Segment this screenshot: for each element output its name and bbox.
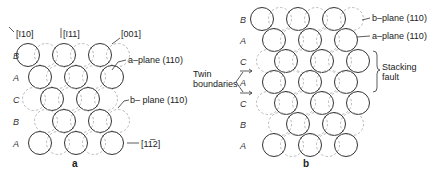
atom-circle-dashed (293, 50, 316, 73)
atom-circle-solid (29, 66, 52, 89)
atom-circle-dashed (317, 134, 340, 157)
atom-circle-solid (347, 92, 370, 115)
atom-circle-dashed (329, 50, 352, 73)
atom-circle-solid (89, 44, 112, 67)
atom-circle-solid (323, 113, 346, 136)
atom-circle-dashed (341, 8, 364, 31)
atom-circle-dashed (95, 88, 118, 111)
atom-circle-solid (53, 110, 76, 133)
row-label: A (239, 141, 246, 151)
row-label: A (12, 139, 19, 149)
row-label: C (240, 99, 247, 109)
row-label: B (13, 51, 19, 61)
atom-circle-dashed (305, 113, 328, 136)
atom-circle-dashed (269, 8, 292, 31)
direction-label: [ī11] (63, 29, 80, 39)
atom-circle-dashed (269, 113, 292, 136)
row-label: A (239, 36, 246, 46)
atom-circle-dashed (257, 92, 280, 115)
atom-circle-dashed (47, 66, 70, 89)
panel-b (251, 8, 370, 157)
crystal-stacking-diagram: [ī10] [ī11] [001] B A C B A a–plane (110… (0, 0, 432, 177)
atom-circle-solid (263, 29, 286, 52)
atom-circle-dashed (329, 92, 352, 115)
pointer-arrow-icon (124, 100, 129, 101)
row-label: A (239, 78, 246, 88)
atom-circle-solid (41, 88, 64, 111)
atom-circle-dashed (35, 110, 58, 133)
twin-boundaries-label: Twin (193, 69, 212, 79)
atom-circle-solid (323, 8, 346, 31)
atom-circle-solid (101, 66, 124, 89)
atom-circle-solid (335, 29, 358, 52)
row-label: B (13, 117, 19, 127)
atom-circle-dashed (107, 110, 130, 133)
atom-circle-solid (335, 71, 358, 94)
atom-circle-solid (17, 44, 40, 67)
direction-arrow-icon (112, 38, 120, 44)
stacking-fault-brace-icon (373, 51, 380, 92)
a-plane-label: a–plane (110) (128, 55, 183, 65)
atom-circle-solid (275, 50, 298, 73)
atom-circle-dashed (257, 50, 280, 73)
atom-circle-dashed (83, 66, 106, 89)
atom-circle-solid (77, 88, 100, 111)
stacking-fault-label: Stacking (382, 62, 417, 72)
atom-circle-solid (335, 134, 358, 157)
row-label: A (12, 73, 19, 83)
atom-circle-solid (311, 50, 334, 73)
atom-circle-solid (287, 113, 310, 136)
panel-b-labels: B A C A C B A b–plane (110) a–plane (110… (193, 13, 427, 169)
stacking-fault-label: fault (382, 72, 400, 82)
atom-circle-solid (29, 132, 52, 155)
atom-circle-solid (287, 8, 310, 31)
atom-circle-dashed (59, 88, 82, 111)
row-label: C (13, 95, 20, 105)
atom-circle-solid (263, 134, 286, 157)
a-plane-label: a–plane (110) (372, 31, 427, 41)
direction-label: [11̅2] (141, 139, 160, 149)
atom-circle-solid (251, 8, 274, 31)
atom-circle-solid (263, 71, 286, 94)
twin-boundaries-label: boundaries (193, 79, 238, 89)
atom-circle-solid (53, 44, 76, 67)
atom-circle-dashed (281, 71, 304, 94)
atom-circle-dashed (317, 29, 340, 52)
direction-label: [001] (121, 29, 141, 39)
row-label: C (240, 57, 247, 67)
atom-circle-solid (299, 134, 322, 157)
atom-circle-dashed (71, 44, 94, 67)
atom-circle-dashed (281, 29, 304, 52)
b-plane-label: b– plane (110) (130, 95, 187, 105)
atom-circle-dashed (23, 88, 46, 111)
atom-circle-solid (65, 132, 88, 155)
atom-circle-solid (89, 110, 112, 133)
atom-circle-dashed (107, 44, 130, 67)
atom-circle-dashed (71, 110, 94, 133)
atom-circle-solid (101, 132, 124, 155)
atom-circle-dashed (305, 8, 328, 31)
pointer-arrow-icon (118, 60, 126, 62)
pointer-arrow-icon (118, 101, 124, 108)
panel-a (17, 44, 130, 155)
panel-caption: b (303, 158, 309, 169)
panel-caption: a (72, 158, 78, 169)
atom-circle-solid (299, 29, 322, 52)
atom-circle-solid (347, 50, 370, 73)
atom-circle-dashed (83, 132, 106, 155)
row-label: B (240, 120, 246, 130)
atom-circle-dashed (317, 71, 340, 94)
panel-a-labels: [ī10] [ī11] [001] B A C B A a–plane (110… (9, 27, 187, 169)
pointer-arrow-icon (357, 36, 370, 37)
direction-label: [ī10] (16, 29, 34, 39)
atom-circle-dashed (293, 92, 316, 115)
atom-circle-dashed (35, 44, 58, 67)
b-plane-label: b–plane (110) (372, 13, 427, 23)
atom-circle-solid (299, 71, 322, 94)
direction-arrow-icon (9, 27, 14, 32)
atom-circle-solid (275, 92, 298, 115)
atom-circle-solid (65, 66, 88, 89)
atom-circle-dashed (341, 113, 364, 136)
atom-circle-dashed (281, 134, 304, 157)
atom-circle-dashed (47, 132, 70, 155)
